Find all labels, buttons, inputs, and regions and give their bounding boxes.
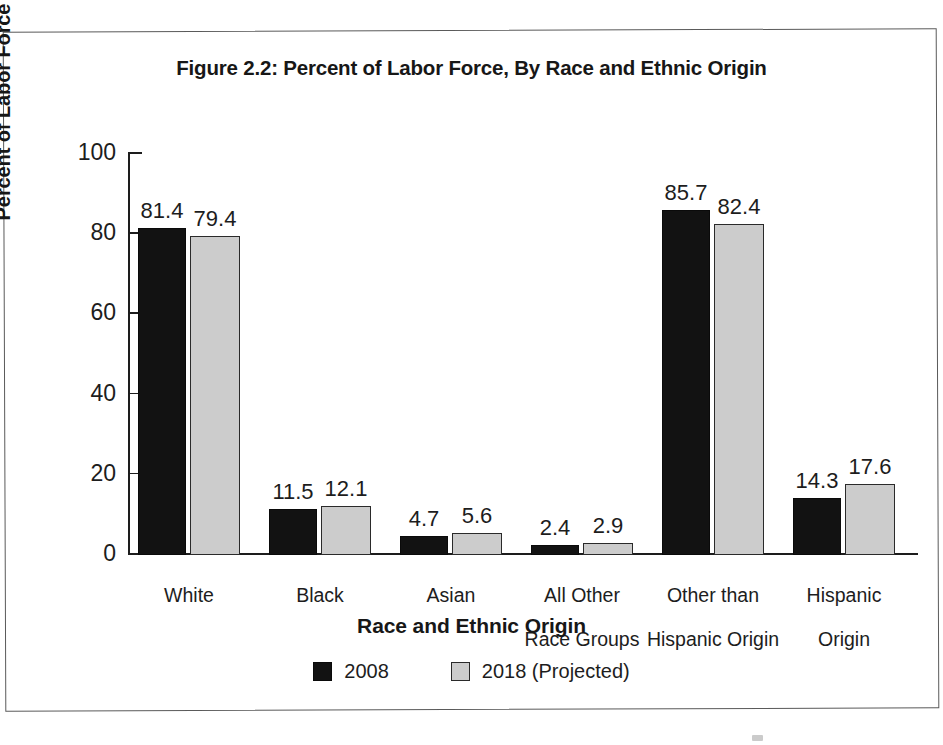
category-label-line1: All Other: [544, 584, 620, 606]
category-label-black: Black: [259, 562, 381, 606]
bar-value-label: 2.4: [540, 515, 571, 541]
bar-2018-other-than-hispanic-origin[interactable]: 82.4: [714, 224, 764, 555]
legend-swatch-2008-icon: [313, 662, 332, 681]
legend-swatch-2018-icon: [451, 662, 470, 681]
y-axis-line: [128, 152, 130, 555]
bar-2018-hispanic-origin[interactable]: 17.6: [845, 484, 895, 555]
bar-2018-all-other-race-groups[interactable]: 2.9: [583, 543, 633, 555]
legend-item-2008[interactable]: 2008: [313, 660, 389, 683]
bar-2008-all-other-race-groups[interactable]: 2.4: [531, 545, 579, 555]
category-label-line1: Black: [296, 584, 344, 606]
y-tick-label: 0: [103, 540, 116, 567]
y-tick-label: 60: [90, 299, 116, 326]
scan-artifact-mark: [752, 735, 763, 741]
y-tick-mark: [129, 152, 142, 154]
legend-label-2018: 2018 (Projected): [482, 660, 630, 683]
bar-value-label: 11.5: [272, 479, 313, 505]
legend-item-2018[interactable]: 2018 (Projected): [451, 660, 630, 683]
chart-plot-area: 0 20 40 60 80 100 81.4 79.4 White 11.5 1…: [128, 152, 918, 555]
bar-2018-asian[interactable]: 5.6: [452, 533, 502, 556]
y-axis-title: Percent of Labor Force: [0, 0, 15, 262]
bar-value-label: 82.4: [718, 194, 761, 220]
bar-value-label: 79.4: [194, 206, 237, 232]
bar-2008-black[interactable]: 11.5: [269, 509, 317, 555]
bar-value-label: 4.7: [409, 506, 440, 532]
bar-value-label: 17.6: [849, 454, 892, 480]
category-label-white: White: [128, 562, 250, 606]
bar-value-label: 12.1: [325, 476, 368, 502]
bar-value-label: 85.7: [665, 180, 708, 206]
bar-value-label: 14.3: [796, 468, 839, 494]
y-tick-label: 80: [90, 219, 116, 246]
category-label-line1: Other than: [667, 584, 759, 606]
bar-value-label: 5.6: [462, 503, 493, 529]
category-label-line1: White: [164, 584, 214, 606]
x-axis-title: Race and Ethnic Origin: [0, 614, 943, 638]
bar-value-label: 2.9: [593, 513, 624, 539]
y-tick-label: 20: [90, 460, 116, 487]
bar-value-label: 81.4: [141, 198, 184, 224]
bar-2008-hispanic-origin[interactable]: 14.3: [793, 498, 841, 556]
y-tick-label: 100: [78, 139, 116, 166]
category-label-asian: Asian: [390, 562, 512, 606]
bar-2008-other-than-hispanic-origin[interactable]: 85.7: [662, 210, 710, 555]
page-title: Figure 2.2: Percent of Labor Force, By R…: [0, 56, 943, 80]
bar-2018-black[interactable]: 12.1: [321, 506, 371, 555]
legend-label-2008: 2008: [344, 660, 389, 683]
bar-2008-white[interactable]: 81.4: [138, 228, 186, 555]
chart-legend: 2008 2018 (Projected): [0, 660, 943, 683]
bar-2018-white[interactable]: 79.4: [190, 236, 240, 555]
category-label-line1: Hispanic: [807, 584, 882, 606]
bar-2008-asian[interactable]: 4.7: [400, 536, 448, 555]
y-tick-label: 40: [90, 380, 116, 407]
category-label-line1: Asian: [427, 584, 476, 606]
